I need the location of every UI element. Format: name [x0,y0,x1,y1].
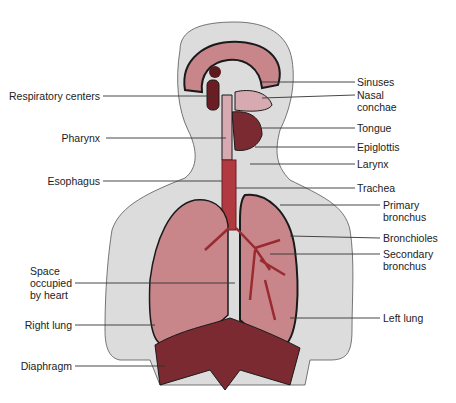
label-right-lung: Right lung [0,319,72,331]
respiratory-diagram: Respiratory centers Pharynx Esophagus Sp… [0,0,456,403]
label-trachea: Trachea [357,182,395,194]
label-left-lung: Left lung [383,312,423,324]
label-nasal-conchae: Nasal conchae [357,89,407,113]
label-respiratory-centers: Respiratory centers [0,90,100,102]
pharynx [222,95,232,160]
brainstem [207,80,219,110]
label-bronchioles: Bronchioles [383,232,438,244]
label-tongue: Tongue [357,122,391,134]
label-secondary-bronchus: Secondary bronchus [383,248,448,272]
label-larynx: Larynx [357,158,389,170]
label-epiglottis: Epiglottis [357,141,400,153]
label-sinuses: Sinuses [357,76,394,88]
midbrain [209,66,221,78]
label-space-occupied-by-heart: Space occupied by heart [30,265,75,301]
label-pharynx: Pharynx [0,132,100,144]
label-primary-bronchus: Primary bronchus [383,199,443,223]
label-diaphragm: Diaphragm [0,360,72,372]
label-esophagus: Esophagus [0,175,100,187]
